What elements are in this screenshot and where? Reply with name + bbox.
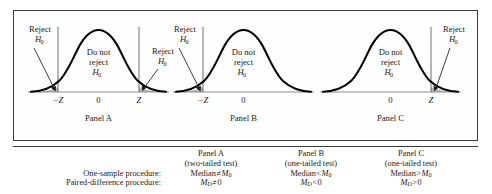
row-label-paired-difference: Paired-difference procedure: xyxy=(13,178,161,188)
panel-a-right-reject-label-line1: Reject xyxy=(152,46,175,56)
column-header-panel-b: Panel B xyxy=(261,149,361,159)
panel-b-do-not-reject-line2: reject xyxy=(234,57,254,67)
panel-a-right-reject-label-h0-sub: 0 xyxy=(163,60,166,67)
column-header-panel-a: Panel A xyxy=(161,149,261,159)
subheader-row-blank-label xyxy=(13,159,161,169)
panel-a-do-not-reject-line1: Do not xyxy=(87,47,111,57)
table-spacer-cell xyxy=(461,178,478,188)
header-row-blank-label xyxy=(13,149,161,159)
one-sample-panel-c-rhs-sub: 0 xyxy=(428,171,431,178)
procedures-table-grid: Panel A Panel B Panel C (two-tailed test… xyxy=(13,149,478,188)
panel-c-do-not-reject-line2: reject xyxy=(381,57,401,67)
one-sample-panel-b-lhs: Median xyxy=(290,169,315,178)
table-spacer-cell xyxy=(461,169,478,179)
one-sample-panel-c: Median>M0 xyxy=(361,169,461,179)
panel-b-left-leader-line xyxy=(179,48,199,88)
panel-c-right-reject-label-line1: Reject xyxy=(443,24,466,34)
figure-stage: Do not reject H 0 Reject H 0 Reject H 0 … xyxy=(0,0,492,194)
paired-panel-c: MD>0 xyxy=(361,178,461,188)
panel-c-right-reject-label-h0-sub: 0 xyxy=(454,38,457,45)
one-sample-panel-b: Median<M0 xyxy=(261,169,361,179)
panel-b-do-not-reject-line1: Do not xyxy=(232,47,256,57)
paired-panel-c-rhs: 0 xyxy=(417,178,421,187)
panel-c-do-not-reject-line1: Do not xyxy=(379,47,403,57)
column-subheader-panel-b: (one-tailed test) xyxy=(261,159,361,169)
one-sample-panel-a-lhs: Median xyxy=(191,169,216,178)
panel-a-left-reject-label-line1: Reject xyxy=(29,24,52,34)
column-header-panel-c: Panel C xyxy=(361,149,461,159)
panel-b-tick-neg-z: −Z xyxy=(198,95,209,105)
panel-a-caption: Panel A xyxy=(85,113,113,123)
table-row-one-sample: One-sample procedure: Median≠M0 Median<M… xyxy=(13,169,478,179)
panel-a-do-not-reject-line2: reject xyxy=(89,57,109,67)
panel-b-do-not-reject-h0-sub: 0 xyxy=(243,71,246,78)
panel-b-left-reject-label-h0-sub: 0 xyxy=(185,38,188,45)
panel-b: Do not reject H 0 Reject H 0 −Z 0 Panel … xyxy=(173,24,314,123)
table-spacer-cell xyxy=(461,149,478,159)
table-row-paired-difference: Paired-difference procedure: MD≠0 MD<0 M… xyxy=(13,178,478,188)
panel-c-tick-zero: 0 xyxy=(388,95,392,105)
column-subheader-panel-a: (two-tailed test) xyxy=(161,159,261,169)
paired-panel-b: MD<0 xyxy=(261,178,361,188)
panel-c: Do not reject H 0 Reject H 0 0 Z Panel C xyxy=(320,24,466,123)
panel-a-tick-neg-z: −Z xyxy=(53,95,64,105)
panel-b-tick-zero: 0 xyxy=(241,95,245,105)
distribution-panels: Do not reject H 0 Reject H 0 Reject H 0 … xyxy=(13,10,478,141)
paired-panel-b-rhs: 0 xyxy=(317,178,321,187)
procedures-table: Panel A Panel B Panel C (two-tailed test… xyxy=(13,146,478,194)
panel-a-tick-zero: 0 xyxy=(96,95,100,105)
table-row-subheaders: (two-tailed test) (one-tailed test) (one… xyxy=(13,159,478,169)
panel-a-right-leader-line xyxy=(144,69,158,88)
panel-a-left-leader-line xyxy=(34,48,54,88)
panel-c-tick-z: Z xyxy=(429,95,434,105)
paired-panel-a: MD≠0 xyxy=(161,178,261,188)
table-spacer-cell xyxy=(461,159,478,169)
panel-a: Do not reject H 0 Reject H 0 Reject H 0 … xyxy=(28,24,175,123)
panel-a-left-reject-label-h0-sub: 0 xyxy=(40,38,43,45)
one-sample-panel-c-lhs: Median xyxy=(390,169,415,178)
one-sample-panel-a: Median≠M0 xyxy=(161,169,261,179)
panel-c-right-leader-line xyxy=(436,48,450,88)
panel-a-do-not-reject-h0-sub: 0 xyxy=(98,71,101,78)
one-sample-panel-b-rhs-sub: 0 xyxy=(328,171,331,178)
row-label-one-sample: One-sample procedure: xyxy=(13,169,161,179)
panel-c-caption: Panel C xyxy=(377,113,404,123)
table-top-rule xyxy=(13,146,478,147)
one-sample-panel-a-rhs-sub: 0 xyxy=(228,171,231,178)
panel-b-left-reject-label-line1: Reject xyxy=(174,24,197,34)
panel-b-caption: Panel B xyxy=(230,113,257,123)
panel-a-tick-z: Z xyxy=(137,95,142,105)
table-row-headers: Panel A Panel B Panel C xyxy=(13,149,478,159)
column-subheader-panel-c: (one-tailed test) xyxy=(361,159,461,169)
panel-c-do-not-reject-h0-sub: 0 xyxy=(390,71,393,78)
paired-panel-a-rhs: 0 xyxy=(217,178,221,187)
